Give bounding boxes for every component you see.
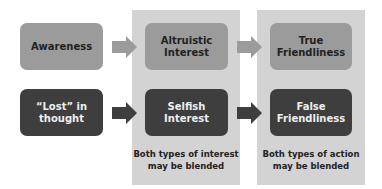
- altruistic-label-line2: Interest: [164, 47, 209, 59]
- false-label-line2: Friendliness: [277, 113, 345, 125]
- lost-label-line1: “Lost” in: [36, 101, 87, 113]
- interest-note-line2: may be blended: [132, 160, 240, 172]
- selfish-label-line2: Interest: [164, 113, 209, 125]
- arrow-right-icon: [112, 102, 137, 124]
- awareness-label: Awareness: [31, 41, 92, 53]
- interest-blend-note: Both types of interest may be blended: [132, 148, 240, 172]
- false-friendliness-node: False Friendliness: [270, 89, 352, 136]
- action-blend-note: Both types of action may be blended: [257, 148, 365, 172]
- action-note-line2: may be blended: [257, 160, 365, 172]
- lost-label-line2: thought: [39, 113, 84, 125]
- true-friendliness-node: True Friendliness: [270, 23, 352, 70]
- arrow-right-icon: [237, 36, 262, 58]
- awareness-node: Awareness: [20, 23, 103, 70]
- true-label-line1: True: [299, 35, 324, 47]
- false-label-line1: False: [296, 101, 325, 113]
- selfish-label-line1: Selfish: [168, 101, 206, 113]
- interest-note-line1: Both types of interest: [132, 148, 240, 160]
- lost-in-thought-node: “Lost” in thought: [20, 89, 103, 136]
- arrow-right-icon: [112, 36, 137, 58]
- action-note-line1: Both types of action: [257, 148, 365, 160]
- altruistic-interest-node: Altruistic Interest: [145, 23, 228, 70]
- selfish-interest-node: Selfish Interest: [145, 89, 228, 136]
- altruistic-label-line1: Altruistic: [161, 35, 213, 47]
- arrow-right-icon: [237, 102, 262, 124]
- true-label-line2: Friendliness: [277, 47, 345, 59]
